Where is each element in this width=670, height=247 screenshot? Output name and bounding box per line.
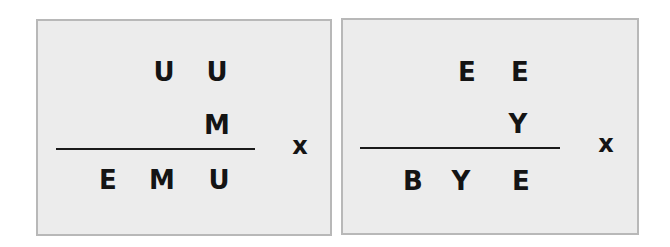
result-line: [360, 147, 560, 149]
product-digit-3: U: [208, 167, 229, 193]
puzzle-panel-1: U U M x E M U: [36, 19, 332, 236]
multiplier-digit-1: Y: [509, 111, 528, 137]
product-digit-3: E: [512, 168, 530, 194]
multiplicand-digit-2: E: [511, 59, 529, 85]
product-digit-1: E: [99, 167, 117, 193]
multiplicand-digit-1: U: [153, 59, 174, 85]
product-digit-1: B: [403, 168, 423, 194]
puzzle-panel-2: E E Y x B Y E: [341, 18, 639, 235]
product-digit-2: Y: [452, 168, 471, 194]
multiplier-digit-1: M: [204, 112, 230, 138]
product-digit-2: M: [149, 167, 175, 193]
multiplicand-digit-2: U: [206, 59, 227, 85]
multiplicand-digit-1: E: [458, 59, 476, 85]
result-line: [56, 148, 255, 150]
multiply-operator: x: [598, 132, 613, 156]
multiply-operator: x: [292, 134, 307, 158]
